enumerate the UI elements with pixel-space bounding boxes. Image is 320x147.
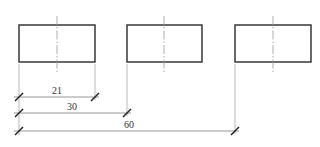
- dimension-label-60: 60: [124, 119, 134, 130]
- dimension-label-30: 30: [67, 101, 77, 112]
- dimension-label-21: 21: [52, 85, 62, 96]
- technical-drawing: 21 30 60: [0, 0, 320, 147]
- rectangle-2: [127, 25, 202, 62]
